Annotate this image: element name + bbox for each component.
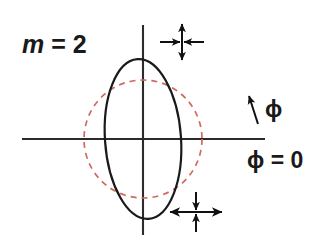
figure-root: m = 2 ϕ ϕ = 0	[0, 0, 325, 244]
mode-label: m = 2	[22, 30, 87, 58]
mode-diagram: m = 2 ϕ ϕ = 0	[0, 0, 325, 244]
mode-label-equals: =	[44, 30, 73, 58]
mode-label-variable: m	[22, 30, 44, 58]
phi-zero-label: ϕ = 0	[247, 147, 303, 173]
phi-axis-label: ϕ	[265, 96, 282, 122]
mode-label-value: 2	[73, 30, 87, 58]
